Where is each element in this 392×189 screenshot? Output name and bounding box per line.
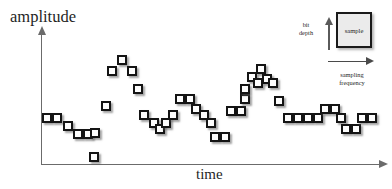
bit-depth-label: bit depth xyxy=(292,21,320,36)
sample-marker xyxy=(101,101,111,111)
sample-marker xyxy=(90,128,100,138)
sample-marker xyxy=(303,113,313,123)
sample-marker xyxy=(185,94,195,104)
sample-marker xyxy=(226,106,236,116)
right-arrow-icon xyxy=(366,57,374,65)
sample-marker xyxy=(139,110,149,120)
sample-marker xyxy=(236,106,246,116)
sample-marker xyxy=(206,118,216,128)
sample-marker xyxy=(133,84,143,94)
up-arrow-icon xyxy=(325,17,333,25)
sample-marker xyxy=(357,113,367,123)
sample-marker xyxy=(117,55,127,65)
sample-marker xyxy=(341,124,351,134)
sample-marker xyxy=(268,78,278,88)
sample-marker xyxy=(283,113,293,123)
sample-marker xyxy=(107,66,117,76)
sample-marker xyxy=(52,113,62,123)
sample-marker xyxy=(336,113,346,123)
sample-marker xyxy=(220,132,230,142)
sample-marker xyxy=(127,66,137,76)
bit-depth-arrow-shaft xyxy=(328,24,330,50)
sample-marker xyxy=(63,121,73,131)
sampling-frequency-arrow-shaft xyxy=(328,61,368,63)
sample-marker xyxy=(175,94,185,104)
sample-marker xyxy=(89,152,99,162)
sample-marker xyxy=(313,113,323,123)
sampling-diagram: amplitude time bit depth sample sampling… xyxy=(0,0,392,189)
sample-marker xyxy=(320,104,330,114)
sampling-frequency-label: sampling frequency xyxy=(324,71,380,86)
sample-marker xyxy=(210,132,220,142)
legend: bit depth sample sampling frequency xyxy=(292,8,392,90)
sample-marker xyxy=(293,113,303,123)
sample-marker xyxy=(42,113,52,123)
sample-marker xyxy=(168,110,178,120)
sample-swatch-label: sample xyxy=(338,27,370,34)
sample-marker xyxy=(240,84,250,94)
sample-swatch: sample xyxy=(336,12,372,48)
sample-marker xyxy=(73,129,83,139)
sample-marker xyxy=(351,124,361,134)
sample-marker xyxy=(240,94,250,104)
sample-marker xyxy=(256,64,266,74)
sample-marker xyxy=(367,113,377,123)
sample-marker xyxy=(274,96,284,106)
